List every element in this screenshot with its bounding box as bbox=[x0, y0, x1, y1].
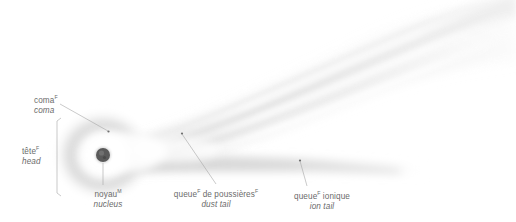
label-dust-tail: queueF de poussièresF dust tail bbox=[160, 186, 272, 210]
label-nucleus-fr: noyauM bbox=[62, 186, 154, 200]
label-head-en: head bbox=[22, 157, 41, 167]
label-nucleus-en: nucleus bbox=[62, 200, 154, 210]
comet-diagram: comaF coma têteF head noyauM nucleus que… bbox=[0, 0, 516, 222]
gender-marker: M bbox=[117, 188, 121, 194]
nucleus bbox=[95, 147, 111, 163]
label-coma-en: coma bbox=[34, 106, 58, 116]
gender-marker: F bbox=[54, 94, 57, 100]
label-ion-tail-fr: queueF ionique bbox=[272, 188, 372, 202]
label-dust-tail-fr: queueF de poussièresF bbox=[160, 186, 272, 200]
label-ion-tail-en: ion tail bbox=[272, 202, 372, 212]
label-coma-fr: comaF bbox=[34, 92, 58, 106]
gender-marker: F bbox=[255, 188, 258, 194]
label-ion-tail: queueF ionique ion tail bbox=[272, 188, 372, 212]
gender-marker: F bbox=[36, 145, 39, 151]
label-nucleus: noyauM nucleus bbox=[62, 186, 154, 210]
label-dust-tail-en: dust tail bbox=[160, 200, 272, 210]
label-head: têteF head bbox=[22, 143, 41, 167]
label-head-fr: têteF bbox=[22, 143, 41, 157]
label-coma: comaF coma bbox=[34, 92, 58, 116]
